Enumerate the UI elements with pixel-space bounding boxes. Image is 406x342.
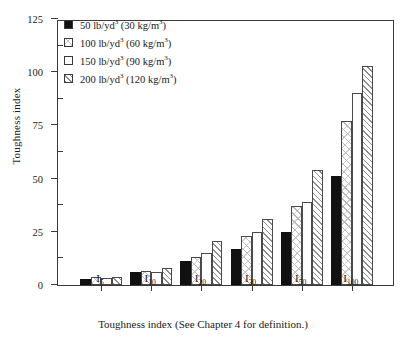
y-tick (51, 284, 58, 285)
y-tick (51, 18, 58, 19)
legend: 50 lb/yd3 (30 kg/m3)100 lb/yd3 (60 kg/m3… (64, 15, 177, 87)
y-tick-label: 125 (3, 15, 43, 26)
y-minor-tick (58, 204, 63, 205)
bar (341, 121, 352, 285)
legend-swatch-icon (64, 20, 73, 29)
y-tick (51, 231, 58, 232)
y-tick-label: 100 (3, 68, 43, 79)
y-minor-tick (58, 98, 63, 99)
legend-label: 150 lb/yd3 (90 kg/m3) (80, 51, 171, 69)
bar (312, 170, 323, 285)
legend-swatch-icon (64, 74, 73, 83)
legend-item[interactable]: 50 lb/yd3 (30 kg/m3) (64, 15, 177, 33)
legend-swatch-icon (64, 56, 73, 65)
legend-item[interactable]: 150 lb/yd3 (90 kg/m3) (64, 51, 177, 69)
y-tick-label: 0 (3, 281, 43, 292)
bar (331, 176, 342, 285)
y-tick (51, 178, 58, 179)
y-minor-tick (58, 45, 63, 46)
legend-label: 50 lb/yd3 (30 kg/m3) (80, 15, 166, 33)
y-tick-label: 50 (3, 174, 43, 185)
legend-item[interactable]: 200 lb/yd3 (120 kg/m3) (64, 69, 177, 87)
legend-label: 200 lb/yd3 (120 kg/m3) (80, 69, 177, 87)
y-minor-tick (58, 257, 63, 258)
y-tick-label: 25 (3, 228, 43, 239)
legend-swatch-icon (64, 38, 73, 47)
bar-chart: Toughness index 0255075100125 I5I10I20I3… (0, 0, 406, 342)
legend-label: 100 lb/yd3 (60 kg/m3) (80, 33, 171, 51)
y-minor-tick (58, 151, 63, 152)
x-axis-caption: Toughness index (See Chapter 4 for defin… (0, 318, 406, 330)
bar (362, 66, 373, 285)
y-tick-label: 75 (3, 121, 43, 132)
y-tick (51, 124, 58, 125)
x-tick-label: I100 (321, 272, 381, 287)
y-tick (51, 71, 58, 72)
bar (352, 93, 363, 285)
legend-item[interactable]: 100 lb/yd3 (60 kg/m3) (64, 33, 177, 51)
